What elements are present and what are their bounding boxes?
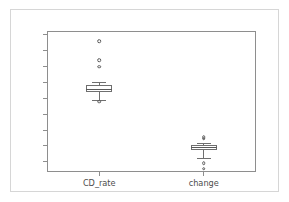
outlier-point-change — [202, 162, 206, 166]
y-tick-mark — [43, 82, 47, 83]
median-line-change — [191, 147, 217, 148]
figure-canvas: -0.50.00.51.01.52.02.53.03.5CD_ratechang… — [0, 0, 289, 202]
x-tick-label: change — [154, 178, 254, 188]
cap-upper-cd_rate — [92, 82, 106, 83]
x-tick-mark — [203, 172, 204, 176]
outlier-point-cd_rate — [97, 39, 101, 43]
cap-lower-change — [197, 158, 211, 159]
outlier-point-change — [202, 167, 206, 171]
plot-axes-frame — [47, 31, 256, 172]
y-tick-mark — [43, 130, 47, 131]
plot-area — [48, 32, 255, 171]
y-tick-mark — [43, 98, 47, 99]
y-tick-mark — [43, 34, 47, 35]
y-tick-mark — [43, 145, 47, 146]
y-tick-mark — [43, 66, 47, 67]
x-tick-label: CD_rate — [49, 178, 149, 188]
y-tick-mark — [43, 114, 47, 115]
median-line-cd_rate — [86, 89, 112, 90]
cap-upper-change — [197, 143, 211, 144]
outlier-point-change — [202, 137, 206, 141]
whisker-lower-change — [203, 150, 204, 158]
outlier-point-cd_rate — [97, 100, 101, 104]
outlier-point-cd_rate — [97, 58, 101, 62]
x-tick-mark — [99, 172, 100, 176]
y-tick-mark — [43, 161, 47, 162]
whisker-lower-cd_rate — [99, 92, 100, 100]
outlier-point-cd_rate — [97, 65, 101, 69]
y-tick-mark — [43, 50, 47, 51]
